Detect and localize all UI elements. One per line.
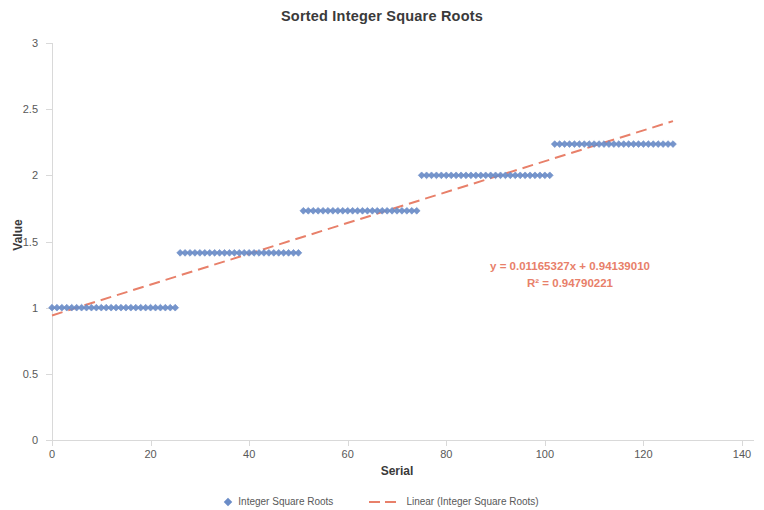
data-point bbox=[394, 207, 401, 214]
x-tick-label: 140 bbox=[722, 449, 762, 460]
y-axis-line bbox=[52, 43, 53, 441]
data-point bbox=[625, 141, 632, 148]
data-point bbox=[591, 141, 598, 148]
x-tick-label: 60 bbox=[328, 449, 368, 460]
x-axis-line bbox=[52, 440, 754, 441]
data-point bbox=[482, 172, 489, 179]
legend-label-data-series: Integer Square Roots bbox=[238, 496, 333, 507]
data-point bbox=[261, 249, 268, 256]
data-point bbox=[334, 207, 341, 214]
data-point bbox=[275, 249, 282, 256]
data-point bbox=[127, 304, 134, 311]
x-tick-mark bbox=[545, 441, 546, 446]
data-point bbox=[541, 172, 548, 179]
data-point bbox=[438, 172, 445, 179]
data-point bbox=[551, 141, 558, 148]
data-point bbox=[492, 172, 499, 179]
data-point bbox=[192, 249, 199, 256]
x-tick-mark bbox=[643, 441, 644, 446]
data-point bbox=[468, 172, 475, 179]
data-point bbox=[93, 304, 100, 311]
data-point bbox=[285, 249, 292, 256]
data-point bbox=[63, 304, 70, 311]
data-point bbox=[655, 141, 662, 148]
data-point bbox=[246, 249, 253, 256]
y-tick-label: 2 bbox=[4, 170, 38, 181]
x-tick-label: 80 bbox=[426, 449, 466, 460]
data-point bbox=[270, 249, 277, 256]
data-point bbox=[241, 249, 248, 256]
data-point bbox=[581, 141, 588, 148]
data-point bbox=[83, 304, 90, 311]
chart-title: Sorted Integer Square Roots bbox=[0, 8, 764, 24]
data-point bbox=[369, 207, 376, 214]
x-tick-mark bbox=[348, 441, 349, 446]
data-point bbox=[477, 172, 484, 179]
legend-item-trendline[interactable]: Linear (Integer Square Roots) bbox=[369, 496, 538, 507]
data-point bbox=[596, 141, 603, 148]
data-point bbox=[601, 141, 608, 148]
data-point bbox=[325, 207, 332, 214]
data-point bbox=[300, 207, 307, 214]
data-point bbox=[167, 304, 174, 311]
data-point bbox=[566, 141, 573, 148]
data-point bbox=[187, 249, 194, 256]
data-point bbox=[113, 304, 120, 311]
data-point bbox=[660, 141, 667, 148]
chart-legend: Integer Square Roots Linear (Integer Squ… bbox=[0, 496, 764, 507]
legend-item-data-series[interactable]: Integer Square Roots bbox=[225, 496, 333, 507]
data-point bbox=[265, 249, 272, 256]
x-tick-label: 0 bbox=[32, 449, 72, 460]
data-point bbox=[305, 207, 312, 214]
data-point bbox=[339, 207, 346, 214]
y-tick-label: 0 bbox=[4, 435, 38, 446]
data-point bbox=[374, 207, 381, 214]
data-point bbox=[561, 141, 568, 148]
diamond-marker-icon bbox=[224, 497, 232, 505]
data-point bbox=[201, 249, 208, 256]
data-point bbox=[103, 304, 110, 311]
data-point bbox=[88, 304, 95, 311]
data-point bbox=[408, 207, 415, 214]
data-point bbox=[359, 207, 366, 214]
x-tick-mark bbox=[249, 441, 250, 446]
x-tick-label: 40 bbox=[229, 449, 269, 460]
x-axis-title: Serial bbox=[52, 464, 742, 478]
data-point bbox=[177, 249, 184, 256]
data-point bbox=[418, 172, 425, 179]
trendline-equation: y = 0.01165327x + 0.94139010 bbox=[455, 258, 685, 275]
data-point bbox=[349, 207, 356, 214]
data-point bbox=[108, 304, 115, 311]
data-point bbox=[196, 249, 203, 256]
x-tick-mark bbox=[742, 441, 743, 446]
data-point bbox=[606, 141, 613, 148]
data-point bbox=[458, 172, 465, 179]
data-point bbox=[354, 207, 361, 214]
data-point bbox=[182, 249, 189, 256]
data-point bbox=[428, 172, 435, 179]
data-point bbox=[295, 249, 302, 256]
x-tick-mark bbox=[151, 441, 152, 446]
data-point bbox=[58, 304, 65, 311]
data-point bbox=[280, 249, 287, 256]
data-point bbox=[256, 249, 263, 256]
data-point bbox=[670, 141, 677, 148]
data-point bbox=[546, 172, 553, 179]
data-point bbox=[453, 172, 460, 179]
data-point bbox=[290, 249, 297, 256]
data-point bbox=[472, 172, 479, 179]
data-point bbox=[532, 172, 539, 179]
data-point bbox=[423, 172, 430, 179]
data-point bbox=[443, 172, 450, 179]
data-point bbox=[650, 141, 657, 148]
x-tick-label: 20 bbox=[131, 449, 171, 460]
data-point bbox=[413, 207, 420, 214]
data-point bbox=[310, 207, 317, 214]
data-point bbox=[157, 304, 164, 311]
data-point bbox=[502, 172, 509, 179]
data-point bbox=[216, 249, 223, 256]
data-point bbox=[576, 141, 583, 148]
data-point bbox=[615, 141, 622, 148]
dashed-line-icon bbox=[369, 501, 399, 503]
data-point bbox=[236, 249, 243, 256]
